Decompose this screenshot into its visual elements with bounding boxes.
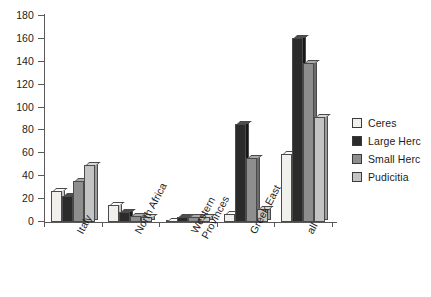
bar	[119, 212, 130, 222]
bar-group	[166, 16, 210, 222]
legend-swatch	[352, 172, 362, 182]
y-tick-mark	[38, 152, 44, 153]
bar	[281, 154, 292, 222]
legend-label: Ceres	[368, 117, 397, 129]
bar-front-face	[108, 205, 119, 222]
bar-front-face	[62, 196, 73, 222]
y-tick-label: 120	[0, 78, 34, 90]
legend-item[interactable]: Large Herc	[352, 132, 430, 149]
bar	[303, 63, 314, 222]
bar	[292, 38, 303, 222]
y-tick-mark	[38, 84, 44, 85]
y-tick-label: 80	[0, 123, 34, 135]
bar-group	[51, 16, 95, 222]
bar-top-face	[248, 155, 263, 158]
bar-group	[281, 16, 325, 222]
legend-label: Small Herc	[368, 153, 420, 165]
legend-swatch	[352, 118, 362, 128]
legend-label: Pudicitia	[368, 171, 409, 183]
plot-area	[44, 16, 332, 222]
y-tick-label: 140	[0, 55, 34, 67]
x-tick-mark	[102, 222, 103, 227]
legend-item[interactable]: Pudicitia	[352, 168, 430, 185]
y-tick-mark	[38, 15, 44, 16]
bar-front-face	[235, 124, 246, 222]
bar-side-face	[95, 163, 98, 220]
legend-swatch	[352, 136, 362, 146]
legend: CeresLarge HercSmall HercPudicitia	[352, 114, 430, 186]
bar-top-face	[237, 121, 252, 124]
bar-front-face	[292, 38, 303, 222]
bar-group	[108, 16, 152, 222]
y-tick-label: 100	[0, 101, 34, 113]
y-tick-label: 20	[0, 192, 34, 204]
y-tick-mark	[38, 175, 44, 176]
y-tick-mark	[38, 129, 44, 130]
legend-swatch	[352, 154, 362, 164]
y-tick-label: 180	[0, 9, 34, 21]
bar-group	[224, 16, 268, 222]
x-tick-mark	[274, 222, 275, 227]
bar	[235, 124, 246, 222]
y-tick-label: 0	[0, 215, 34, 227]
y-tick-label: 60	[0, 146, 34, 158]
y-tick-label: 160	[0, 32, 34, 44]
bar-top-face	[121, 209, 136, 212]
bar-front-face	[177, 217, 188, 222]
bar-side-face	[325, 115, 328, 220]
x-tick-mark	[44, 222, 45, 227]
bar-chart: 180160140120100806040200 ItalyNorth Afri…	[0, 0, 431, 297]
bar	[108, 205, 119, 222]
bar	[62, 196, 73, 222]
bar	[166, 221, 177, 223]
bar	[51, 191, 62, 222]
bar	[224, 214, 235, 222]
y-tick-mark	[38, 61, 44, 62]
legend-item[interactable]: Ceres	[352, 114, 430, 131]
y-tick-mark	[38, 107, 44, 108]
y-tick-mark	[38, 38, 44, 39]
bar-front-face	[51, 191, 62, 222]
y-tick-mark	[38, 198, 44, 199]
legend-label: Large Herc	[368, 135, 421, 147]
bar-top-face	[294, 35, 309, 38]
x-tick-mark	[332, 222, 333, 227]
legend-item[interactable]: Small Herc	[352, 150, 430, 167]
bar-front-face	[119, 212, 130, 222]
bar	[314, 117, 325, 222]
x-tick-mark	[159, 222, 160, 227]
bar-front-face	[303, 63, 314, 222]
bar-top-face	[53, 188, 68, 191]
bar-top-face	[110, 202, 125, 205]
y-tick-label: 40	[0, 169, 34, 181]
bar-front-face	[314, 117, 325, 222]
bar-top-face	[316, 114, 331, 117]
bar-top-face	[86, 162, 101, 165]
bar-front-face	[224, 214, 235, 222]
bar-top-face	[305, 60, 320, 63]
bar	[177, 217, 188, 222]
bar-front-face	[281, 154, 292, 222]
